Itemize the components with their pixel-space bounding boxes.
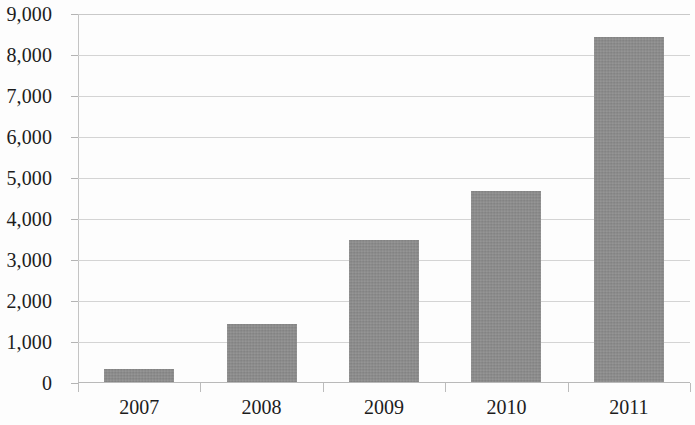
y-axis-tick-label: 5,000 [0,168,52,188]
bar-series [78,14,690,383]
y-axis-tick-label: 7,000 [0,86,52,106]
y-axis-tick [71,14,78,15]
x-axis-tick-label: 2009 [323,394,445,420]
y-axis-tick [71,178,78,179]
y-axis-tick-label: 8,000 [0,45,52,65]
y-axis-tick-label: 6,000 [0,127,52,147]
y-axis-tick-label: 4,000 [0,209,52,229]
y-axis-tick-label: 3,000 [0,250,52,270]
x-axis-tick-label: 2008 [200,394,322,420]
x-axis-tick [445,383,446,392]
bar-slot [568,14,690,383]
bar [594,37,664,383]
x-axis-tick [690,383,691,392]
x-axis-tick-labels: 20072008200920102011 [78,394,690,425]
y-axis-tick [71,137,78,138]
bar-slot [200,14,322,383]
y-axis-tick [71,383,78,384]
x-axis-tick [568,383,569,392]
bar [349,240,419,384]
x-axis-tick-label: 2010 [445,394,567,420]
y-axis-tick [71,342,78,343]
y-axis-tick-label: 1,000 [0,332,52,352]
bar-slot [323,14,445,383]
bar-chart: 9,0008,0007,0006,0005,0004,0003,0002,000… [0,0,695,425]
x-axis-tick [323,383,324,392]
x-axis-tick-label: 2011 [568,394,690,420]
y-axis-tick [71,219,78,220]
bar [471,191,541,383]
y-axis-tick [71,55,78,56]
y-axis-tick [71,260,78,261]
bar-slot [445,14,567,383]
y-axis-tick-label: 0 [0,373,52,393]
y-axis-tick [71,96,78,97]
x-axis-tick [78,383,79,392]
x-axis-tick [200,383,201,392]
y-axis-tick-labels: 9,0008,0007,0006,0005,0004,0003,0002,000… [0,0,52,425]
y-axis-tick-label: 9,000 [0,4,52,24]
x-axis-tick-label: 2007 [78,394,200,420]
bar [104,369,174,383]
bar-slot [78,14,200,383]
bar [227,324,297,383]
x-axis-ticks [78,383,690,392]
y-axis-tick [71,301,78,302]
plot-area [78,14,690,383]
y-axis-tick-label: 2,000 [0,291,52,311]
